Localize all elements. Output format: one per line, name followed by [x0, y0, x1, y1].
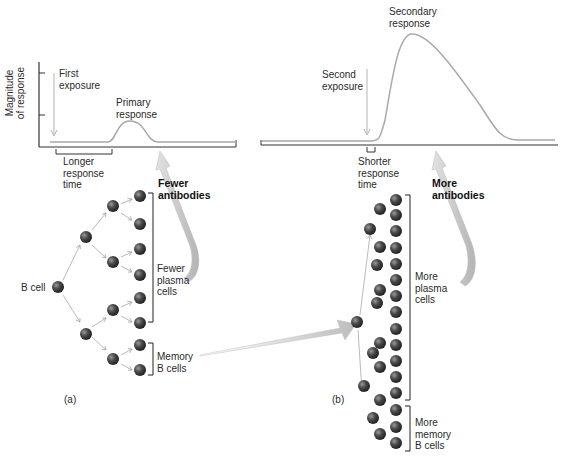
- plasma-cell: [134, 317, 146, 329]
- memory-to-secondary-arrow: [200, 320, 356, 356]
- shorter-response-time-label: Shorter response time: [358, 156, 399, 191]
- b-cell-label: B cell: [21, 282, 45, 294]
- plasma-cell: [134, 243, 146, 255]
- fewer-antibodies-label: Fewer antibodies: [158, 178, 211, 201]
- plasma-cell: [134, 190, 146, 202]
- longer-response-time-label: Longer response time: [63, 156, 104, 191]
- memory-cell: [134, 339, 146, 351]
- y-axis-label: Magnitude of response: [4, 53, 26, 133]
- memory-b-cells-label: Memory B cells: [157, 351, 193, 374]
- more-memory-b-cells-label: More memory B cells: [415, 417, 451, 452]
- plasma-cell: [134, 269, 146, 281]
- panel-a-label: (a): [64, 394, 76, 406]
- fewer-plasma-cells-label: Fewer plasma cells: [157, 263, 189, 298]
- plasma-cell: [134, 218, 146, 230]
- primary-response-curve: [50, 121, 236, 142]
- b-cell: [52, 281, 64, 293]
- more-plasma-cells-label: More plasma cells: [415, 271, 447, 306]
- primary-response-label: Primary response: [116, 97, 157, 120]
- panel-b-label: (b): [332, 394, 344, 406]
- panel-a-cell-tree: [52, 190, 153, 376]
- more-antibodies-arrow: [432, 151, 475, 286]
- memory-cell: [134, 364, 146, 376]
- shorter-response-bracket: [367, 147, 375, 152]
- memory-bracket: [148, 343, 153, 375]
- more-memory-bracket: [405, 406, 410, 451]
- secondary-response-graph: [261, 34, 558, 152]
- more-plasma-bracket: [405, 195, 410, 400]
- immune-response-diagram: Magnitude of response First exposure Pri…: [0, 0, 570, 466]
- plasma-bracket: [148, 193, 153, 322]
- plasma-cell: [134, 292, 146, 304]
- more-antibodies-label: More antibodies: [432, 178, 485, 201]
- first-exposure-label: First exposure: [59, 68, 100, 91]
- second-exposure-label: Second exposure: [322, 69, 363, 92]
- secondary-response-label: Secondary response: [389, 6, 437, 29]
- secondary-response-curve: [262, 34, 555, 141]
- longer-response-bracket: [56, 149, 112, 154]
- panel-b-cell-cluster: [351, 194, 410, 451]
